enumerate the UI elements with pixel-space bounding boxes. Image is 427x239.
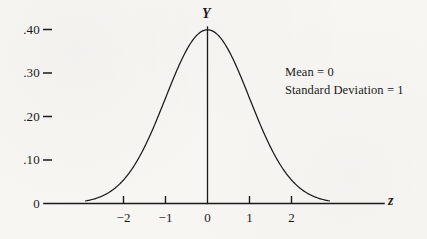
- annotation-standard-deviation: Standard Deviation = 1: [285, 82, 404, 100]
- parameter-annotation: Mean = 0 Standard Deviation = 1: [285, 64, 404, 100]
- x-axis-title: z: [388, 194, 393, 208]
- y-tick-label-zero: 0: [10, 197, 40, 210]
- x-tick-label-minus-1: −1: [149, 211, 182, 224]
- annotation-mean: Mean = 0: [285, 64, 404, 82]
- x-tick-label-0: 0: [191, 211, 224, 224]
- x-tick-label-1: 1: [233, 211, 266, 224]
- y-tick-label-30: .30: [10, 66, 40, 79]
- y-tick-label-20: .20: [10, 110, 40, 123]
- y-tick-label-10: .10: [10, 153, 40, 166]
- x-tick-label-2: 2: [275, 211, 308, 224]
- plot-canvas: [0, 0, 427, 239]
- y-axis-title: Y: [202, 7, 211, 21]
- normal-distribution-figure: .40 .30 .20 .10 0 −2 −1 0 1 2 Y z Mean =…: [0, 0, 427, 239]
- y-tick-label-40: .40: [10, 23, 40, 36]
- x-tick-label-minus-2: −2: [107, 211, 140, 224]
- y-tick-marks: [43, 30, 52, 161]
